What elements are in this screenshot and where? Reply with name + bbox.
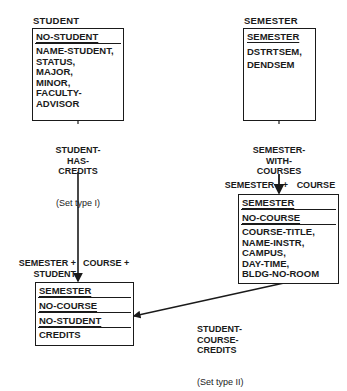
student-key: NO-STUDENT — [33, 29, 123, 43]
semester-attributes: DSTRTSEM, DENDSEM — [244, 43, 315, 73]
credits-record-box: SEMESTER NO-COURSE NO-STUDENT CREDITS — [35, 282, 134, 346]
credits-key-label-left: SEMESTER + STUDENT — [10, 258, 76, 279]
set-name: SEMESTER- WITH- COURSES — [234, 145, 324, 177]
credits-key-no-student: NO-STUDENT — [36, 313, 133, 327]
course-key-label: SEMESTER + COURSE — [218, 180, 342, 191]
set-type: (Set type II) — [197, 377, 244, 388]
course-record-box: SEMESTER NO-COURSE COURSE-TITLE, NAME-IN… — [238, 194, 339, 284]
set-student-course-credits: STUDENT- COURSE- CREDITS (Set type II) — [197, 303, 244, 391]
credits-key-label-right: COURSE + — [83, 258, 129, 269]
student-record-box: NO-STUDENT NAME-STUDENT, STATUS, MAJOR, … — [32, 28, 124, 121]
set-name: STUDENT- HAS- CREDITS — [38, 145, 118, 177]
course-key-semester: SEMESTER — [239, 195, 338, 209]
credits-key-semester: SEMESTER — [36, 283, 133, 297]
student-record-title: STUDENT — [33, 15, 79, 26]
semester-key: SEMESTER — [244, 29, 315, 43]
semester-record-title: SEMESTER — [244, 15, 298, 26]
course-key-no-course: NO-COURSE — [239, 210, 338, 224]
course-attributes: COURSE-TITLE, NAME-INSTR, CAMPUS, DAY-TI… — [239, 225, 338, 282]
set-type: (Set type I) — [38, 198, 118, 209]
semester-record-box: SEMESTER DSTRTSEM, DENDSEM — [243, 28, 316, 121]
credits-attributes: CREDITS — [36, 328, 133, 343]
student-attributes: NAME-STUDENT, STATUS, MAJOR, MINOR, FACU… — [33, 44, 123, 111]
set-name: STUDENT- COURSE- CREDITS — [197, 324, 244, 356]
credits-key-no-course: NO-COURSE — [36, 298, 133, 312]
set-student-has-credits: STUDENT- HAS- CREDITS (Set type I) — [38, 124, 118, 219]
